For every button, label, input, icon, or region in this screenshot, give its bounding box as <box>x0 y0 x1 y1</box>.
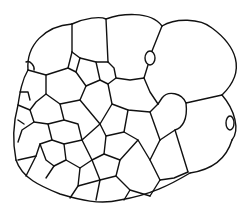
cell-tissue-illustration <box>0 0 251 220</box>
internal-cell-walls <box>18 19 234 200</box>
